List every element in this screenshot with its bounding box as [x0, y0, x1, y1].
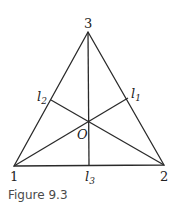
l2-label: l2 — [37, 89, 47, 106]
vertex-2-label: 2 — [160, 169, 168, 184]
l3-label: l3 — [85, 169, 95, 186]
center-o-label: O — [77, 127, 88, 142]
figure-caption: Figure 9.3 — [8, 188, 68, 202]
vertex-3-label: 3 — [84, 16, 92, 31]
l1-label: l1 — [131, 86, 141, 103]
vertex-1-label: 1 — [10, 169, 18, 184]
altitude-3-l3 — [88, 32, 89, 166]
line-1-l1 — [14, 98, 128, 166]
triangle-diagram: 3 1 2 O l2 l1 l3 — [0, 0, 177, 206]
